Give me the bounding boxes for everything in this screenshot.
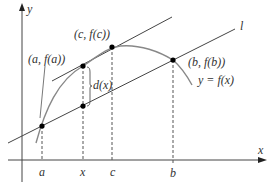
point-b-label: (b, f(b)) (188, 56, 225, 68)
distance-label: d(x) (93, 79, 112, 91)
secant-label: l (240, 20, 243, 32)
distance-brace (87, 67, 92, 106)
label-pointer-a (40, 66, 45, 118)
tick-a: a (39, 166, 45, 178)
diagram-canvas (0, 0, 270, 184)
point-c (109, 44, 114, 49)
y-axis-label: y (27, 3, 32, 15)
tick-x: x (80, 166, 85, 178)
point-c-label: (c, f(c)) (74, 28, 110, 40)
point-x-lower (80, 103, 85, 108)
curve-label: y = f(x) (198, 74, 234, 86)
x-axis-label: x (258, 144, 263, 156)
point-a-label: (a, f(a)) (28, 53, 65, 65)
point-x-upper (80, 63, 85, 68)
tick-b: b (170, 167, 176, 179)
point-b (170, 57, 175, 62)
point-a (39, 123, 44, 128)
y-axis-arrow-icon (19, 3, 25, 11)
x-axis-arrow-icon (258, 157, 267, 163)
tick-c: c (110, 166, 115, 178)
